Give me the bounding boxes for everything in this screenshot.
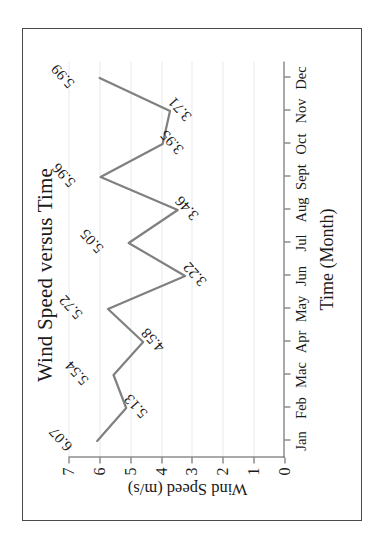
x-tick-mark	[284, 110, 290, 111]
x-tick-label: Jun	[292, 265, 309, 285]
y-tick-label: 5	[121, 467, 139, 475]
x-tick-label: Feb	[292, 397, 309, 419]
y-tick-label: 6	[90, 467, 108, 475]
x-tick-mark	[284, 242, 290, 243]
figure-page: Wind Speed versus Time 01234567 JanFebMa…	[0, 0, 384, 549]
x-tick-label: Nov	[292, 98, 309, 123]
y-tick-label: 0	[275, 467, 293, 475]
x-tick-label: Oct	[292, 133, 309, 154]
y-tick-label: 3	[182, 467, 200, 475]
chart-title: Wind Speed versus Time	[32, 30, 57, 519]
x-tick-label: Aug	[292, 197, 309, 222]
y-tick-label: 7	[59, 467, 77, 475]
x-tick-mark	[284, 374, 290, 375]
y-axis-title: Wind Speed (m/s)	[79, 478, 295, 498]
figure-border: Wind Speed versus Time 01234567 JanFebMa…	[22, 28, 362, 521]
y-tick-label: 1	[244, 467, 262, 475]
x-tick-label: Sept	[292, 164, 309, 190]
y-tick-mark	[191, 457, 192, 463]
x-tick-mark	[284, 209, 290, 210]
x-tick-label: Apr	[292, 330, 309, 353]
y-tick-mark	[99, 457, 100, 463]
x-tick-label: Mac	[292, 362, 309, 388]
x-tick-mark	[284, 308, 290, 309]
x-tick-mark	[284, 407, 290, 408]
x-axis-title: Time (Month)	[316, 61, 337, 457]
y-tick-label: 4	[152, 467, 170, 475]
series-line	[68, 61, 284, 457]
chart: Wind Speed versus Time 01234567 JanFebMa…	[24, 30, 360, 519]
y-tick-mark	[253, 457, 254, 463]
y-axis-title-container: Wind Speed (m/s)	[79, 476, 295, 498]
x-tick-mark	[284, 176, 290, 177]
x-tick-mark	[284, 143, 290, 144]
y-tick-mark	[161, 457, 162, 463]
x-tick-label: Jul	[292, 234, 309, 251]
x-tick-mark	[284, 77, 290, 78]
rotated-chart-container: Wind Speed versus Time 01234567 JanFebMa…	[24, 30, 360, 519]
x-tick-mark	[284, 275, 290, 276]
y-tick-mark	[222, 457, 223, 463]
y-tick-label: 2	[213, 467, 231, 475]
x-tick-label: Dec	[292, 66, 309, 89]
y-tick-mark	[68, 457, 69, 463]
x-tick-mark	[284, 341, 290, 342]
x-tick-mark	[284, 440, 290, 441]
plot-area: 01234567 JanFebMacAprMayJunJulAugSeptOct…	[68, 61, 284, 457]
y-tick-mark	[130, 457, 131, 463]
x-tick-label: May	[292, 295, 309, 322]
y-tick-mark	[284, 457, 285, 463]
x-tick-label: Jan	[292, 431, 309, 450]
